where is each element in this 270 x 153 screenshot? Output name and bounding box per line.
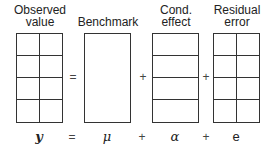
observed-row-divider-2 [17,77,62,78]
benchmark-matrix [84,33,131,123]
symbol-y: y [29,130,49,144]
observed-title-line2: value [6,16,74,28]
benchmark-title: Benchmark [74,16,142,28]
observed-value-matrix [16,33,63,123]
benchmark-title-line: Benchmark [74,16,142,28]
equals-sign-boxes: = [67,71,79,83]
observed-row-divider-1 [17,55,62,56]
cond-effect-row-divider-2 [153,77,198,78]
equals-sign-equation: = [66,131,78,143]
symbol-alpha: α [165,130,185,144]
cond-effect-matrix [152,33,199,123]
symbol-mu: μ [97,130,117,144]
residual-error-title-line2: error [203,16,270,28]
cond-effect-row-divider-1 [153,55,198,56]
residual-row-divider-2 [214,77,259,78]
cond-effect-title: Cond. effect [142,4,210,28]
residual-row-divider-3 [214,99,259,100]
plus-sign-equation-2: + [200,131,212,143]
plus-sign-boxes-1: + [137,71,149,83]
cond-effect-title-line2: effect [142,16,210,28]
symbol-e: e [226,130,246,144]
plus-sign-equation-1: + [136,131,148,143]
residual-error-title: Residual error [203,4,270,28]
residual-col-divider [236,34,237,122]
plus-sign-boxes-2: + [200,71,212,83]
observed-col-divider [39,34,40,122]
residual-row-divider-1 [214,55,259,56]
cond-effect-row-divider-3 [153,99,198,100]
observed-value-title: Observed value [6,4,74,28]
residual-error-matrix [213,33,260,123]
observed-row-divider-3 [17,99,62,100]
